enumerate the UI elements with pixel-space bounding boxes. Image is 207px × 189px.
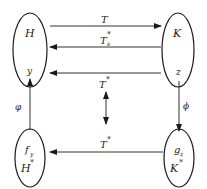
diagram-canvas: H K y z T T s * T * T * φ ϕ f y g z H * … xyxy=(0,0,207,189)
svg-text:z: z xyxy=(179,150,184,157)
label-H: H xyxy=(24,27,35,40)
label-T: T xyxy=(101,14,109,25)
label-z: z xyxy=(175,67,181,77)
label-y: y xyxy=(26,66,33,76)
svg-text:*: * xyxy=(107,30,111,39)
label-K-star: K * xyxy=(169,158,183,175)
label-f-y: f y xyxy=(24,144,34,158)
label-K: K xyxy=(172,27,182,40)
label-phi-left: φ xyxy=(15,102,22,112)
operator-diagram: H K y z T T s * T * T * φ ϕ f y g z H * … xyxy=(0,0,207,189)
label-phi-right: ϕ xyxy=(183,101,189,111)
svg-text:s: s xyxy=(107,40,110,47)
svg-text:y: y xyxy=(29,150,34,158)
svg-text:*: * xyxy=(179,158,183,167)
svg-text:*: * xyxy=(30,158,34,167)
label-Ts-star: T s * xyxy=(100,30,111,47)
label-g-z: g z xyxy=(174,144,184,157)
label-T-star-mid: T * xyxy=(99,75,110,90)
svg-text:*: * xyxy=(107,135,111,144)
label-H-star: H * xyxy=(20,158,34,175)
svg-text:K: K xyxy=(169,162,179,175)
svg-text:*: * xyxy=(106,75,110,84)
label-T-star-bottom: T * xyxy=(100,135,111,150)
